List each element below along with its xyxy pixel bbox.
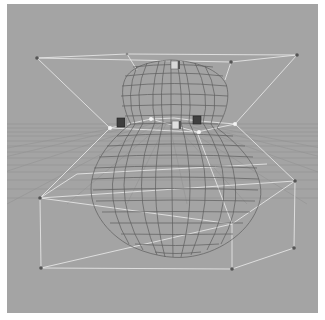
lattice-points[interactable]: [35, 53, 299, 271]
lattice-point[interactable]: [35, 56, 39, 60]
lattice-point[interactable]: [229, 60, 233, 64]
gourd-wireframe-mesh[interactable]: [91, 60, 261, 257]
lattice-point[interactable]: [230, 267, 234, 271]
lattice-point[interactable]: [197, 130, 201, 134]
lattice-point[interactable]: [295, 53, 299, 57]
handle-mid-left[interactable]: [117, 118, 127, 127]
lattice-point[interactable]: [293, 179, 297, 183]
lattice-point[interactable]: [292, 246, 296, 250]
lattice-point[interactable]: [233, 122, 237, 126]
handle-mid-center[interactable]: [172, 121, 181, 129]
handle-mid-right[interactable]: [193, 116, 201, 124]
3d-viewport[interactable]: 3D perspective viewport: [7, 4, 318, 313]
lattice-point[interactable]: [108, 126, 112, 130]
viewport-canvas[interactable]: [7, 4, 318, 313]
lattice-point[interactable]: [39, 266, 43, 270]
lattice-point[interactable]: [126, 53, 129, 56]
lattice-point[interactable]: [38, 196, 42, 200]
lattice-point[interactable]: [149, 117, 153, 121]
handle-top-center[interactable]: [171, 61, 180, 69]
lattice-cage: [37, 54, 297, 269]
